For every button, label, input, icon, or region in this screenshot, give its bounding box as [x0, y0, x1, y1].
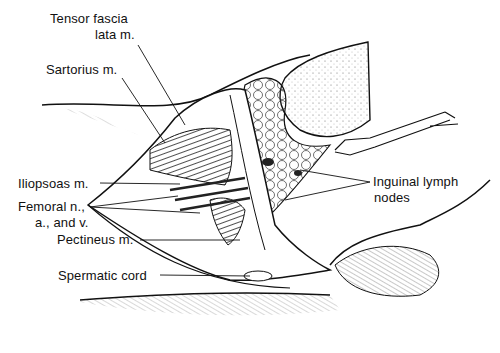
label-femoral-line2: a., and v. [35, 216, 89, 230]
label-spermatic-cord: Spermatic cord [58, 269, 147, 283]
label-tensor-fascia-lata: Tensor fascia [50, 12, 128, 26]
label-iliopsoas: Iliopsoas m. [18, 177, 89, 191]
label-pectineus: Pectineus m. [57, 233, 133, 247]
label-tensor-fascia-lata-line2: lata m. [95, 28, 135, 42]
label-inguinal-lymph-nodes-line2: nodes [374, 191, 410, 205]
label-femoral: Femoral n., [18, 200, 85, 214]
leader-inguinal-1 [300, 170, 370, 182]
lymph-node [262, 158, 274, 166]
scrotum-shading [335, 246, 439, 296]
lymph-node [294, 170, 302, 176]
label-inguinal-lymph-nodes: Inguinal lymph [373, 175, 458, 189]
retracted-skin-flap [280, 42, 370, 137]
leader-sartorius [122, 78, 165, 143]
label-sartorius: Sartorius m. [46, 63, 117, 77]
